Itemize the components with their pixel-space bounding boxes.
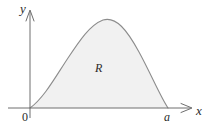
x-axis-label: x bbox=[196, 104, 202, 117]
region-label-R: R bbox=[95, 62, 102, 74]
y-axis-label: y bbox=[20, 2, 26, 15]
graph-canvas bbox=[0, 0, 211, 129]
upper-limit-label-a: a bbox=[164, 111, 170, 123]
origin-label: 0 bbox=[22, 111, 28, 123]
figure-region-under-curve: y x 0 a R bbox=[0, 0, 211, 129]
